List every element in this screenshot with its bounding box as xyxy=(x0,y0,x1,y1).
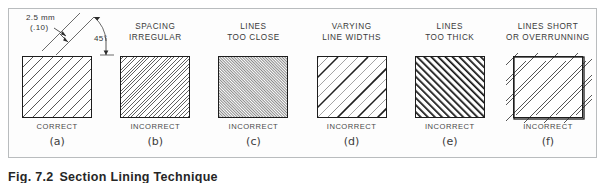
panel-b: SPACING IRREGULAR xyxy=(106,8,204,158)
panel-b-key: (b) xyxy=(106,135,204,148)
figure-caption: Fig. 7.2Section Lining Technique xyxy=(8,170,218,183)
panel-d-heading: VARYING LINE WIDTHS xyxy=(303,22,401,43)
panel-c-verdict: INCORRECT xyxy=(204,122,302,131)
panel-f-key: (f) xyxy=(499,135,597,148)
figure-caption-number: Fig. 7.2 xyxy=(8,170,53,183)
hatch-lines-varying-width xyxy=(318,57,387,118)
panel-e-key: (e) xyxy=(401,135,499,148)
panel-d-box-wrap xyxy=(317,56,387,118)
panel-c-heading: LINES TOO CLOSE xyxy=(204,22,302,43)
panel-b-verdict: INCORRECT xyxy=(106,122,204,131)
hatch-lines-too-thick xyxy=(416,57,485,118)
panel-e-heading: LINES TOO THICK xyxy=(401,22,499,43)
panel-b-heading: SPACING IRREGULAR xyxy=(106,22,204,43)
panel-a-verdict: CORRECT xyxy=(8,122,106,131)
hatch-box-too-close xyxy=(218,56,288,118)
hatch-lines-too-close xyxy=(219,57,288,118)
panel-c: LINES TOO CLOSE INCORRECT (c) xyxy=(204,8,302,158)
panel-e: LINES TOO THICK INCORRECT (e) xyxy=(401,8,499,158)
hatch-lines-short-overrun xyxy=(506,49,592,127)
hatch-lines-uniform xyxy=(23,57,92,118)
figure-caption-title: Section Lining Technique xyxy=(59,170,217,183)
panel-c-box-wrap xyxy=(218,56,288,118)
hatch-box-too-thick xyxy=(415,56,485,118)
panel-f-box-wrap xyxy=(513,56,583,118)
panel-c-key: (c) xyxy=(204,135,302,148)
panel-d-verdict: INCORRECT xyxy=(303,122,401,131)
panel-b-box-wrap xyxy=(120,56,190,118)
panel-d-key: (d) xyxy=(303,135,401,148)
panel-a-box-wrap xyxy=(22,56,92,118)
panel-e-verdict: INCORRECT xyxy=(401,122,499,131)
hatch-lines-irregular xyxy=(121,57,190,118)
hatch-box-irregular xyxy=(120,56,190,118)
panel-e-box-wrap xyxy=(415,56,485,118)
panel-d: VARYING LINE WIDTHS xyxy=(303,8,401,158)
hatch-box-varying-width xyxy=(317,56,387,118)
panel-a: CORRECT (a) xyxy=(8,8,106,158)
panel-row: CORRECT (a) SPACING IRREGULAR xyxy=(8,8,597,158)
hatch-box-correct xyxy=(22,56,92,118)
panel-f: LINES SHORT OR OVERRUNNING xyxy=(499,8,597,158)
panel-f-heading: LINES SHORT OR OVERRUNNING xyxy=(499,22,597,43)
hatch-box-short-overrun xyxy=(513,56,583,118)
panel-f-verdict: INCORRECT xyxy=(499,122,597,131)
panel-a-key: (a) xyxy=(8,135,106,148)
figure-page: CORRECT (a) SPACING IRREGULAR xyxy=(0,0,613,183)
